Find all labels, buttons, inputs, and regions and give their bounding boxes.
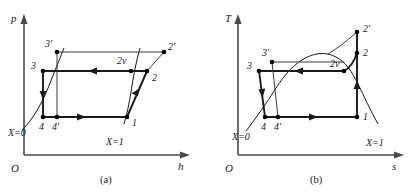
panel-a-label-4: 4 xyxy=(39,121,44,132)
panel-b-arrow-evaporate xyxy=(309,114,318,121)
panel-a-label-1: 1 xyxy=(132,117,137,128)
panel-b-line-2p-curve xyxy=(328,32,357,54)
panel-a-caption: (a) xyxy=(100,174,112,186)
panel-b-x-axis xyxy=(238,151,404,158)
panel-a-x-axis-label: h xyxy=(178,160,184,172)
panel-a-arrow-compress xyxy=(132,88,141,96)
panel-a-point-3prime xyxy=(55,50,60,55)
panel-b-label-2prime: 2' xyxy=(363,23,371,34)
panel-b-point-2v xyxy=(342,69,347,74)
panel-b-line-2-2v xyxy=(344,53,357,71)
panel-b-point-4prime xyxy=(276,115,281,120)
panel-a-point-1 xyxy=(125,115,130,120)
panel-a-y-axis-label: p xyxy=(10,12,17,24)
panel-b-arrow-compress xyxy=(354,80,361,89)
panel-a-origin-label: O xyxy=(11,162,19,174)
panel-b-point-3 xyxy=(257,69,262,74)
panel-b-arrow-condense xyxy=(294,68,303,75)
panel-b-label-3: 3 xyxy=(246,60,252,71)
panel-a-label-3: 3 xyxy=(30,60,36,71)
panel-a-point-4prime xyxy=(55,115,60,120)
panel-a-arrow-condense xyxy=(88,68,97,75)
panel-a-point-2v xyxy=(129,69,134,74)
panel-a-point-2prime xyxy=(162,50,167,55)
figure-svg: p h O 3' 3 4 4' 1 2 2' 2v X=0 X=1 (a) xyxy=(0,0,414,193)
figure-container: p h O 3' 3 4 4' 1 2 2' 2v X=0 X=1 (a) xyxy=(0,0,414,193)
panel-a-label-x0: X=0 xyxy=(7,127,26,138)
panel-a-label-2prime: 2' xyxy=(168,41,176,52)
panel-b-y-axis-label: T xyxy=(225,12,232,24)
panel-a-point-3 xyxy=(41,69,46,74)
panel-b-label-3prime: 3' xyxy=(261,47,270,58)
panel-b-label-x0: X=0 xyxy=(231,131,250,142)
panel-a-label-2v: 2v xyxy=(117,55,127,66)
panel-b-point-2 xyxy=(355,51,360,56)
panel-b-label-x1: X=1 xyxy=(365,137,384,148)
panel-b-point-2prime xyxy=(355,30,360,35)
panel-b-caption: (b) xyxy=(310,174,323,186)
panel-b-arrow-throttle xyxy=(259,89,266,98)
panel-a-label-x1: X=1 xyxy=(105,136,124,147)
panel-a-label-4prime: 4' xyxy=(52,121,60,132)
panel-a-x-axis xyxy=(24,151,190,158)
panel-b-label-4prime: 4' xyxy=(274,121,282,132)
panel-a-point-2 xyxy=(145,69,150,74)
panel-b-origin-label: O xyxy=(225,162,233,174)
panel-b-label-2v: 2v xyxy=(330,58,340,69)
panel-b-point-4 xyxy=(263,115,268,120)
panel-a-arrow-evaporate xyxy=(77,114,86,121)
panel-b-point-1 xyxy=(355,115,360,120)
panel-a-line-2p-2 xyxy=(147,52,164,71)
panel-b-label-1: 1 xyxy=(363,111,368,122)
panel-a: p h O 3' 3 4 4' 1 2 2' 2v X=0 X=1 (a) xyxy=(7,12,190,186)
panel-b-label-4: 4 xyxy=(261,121,266,132)
panel-a-label-2: 2 xyxy=(152,72,157,83)
panel-b: T s O 3' 3 4 4' 1 2 2' 2v X=0 X=1 (b) xyxy=(225,12,404,186)
panel-b-label-2: 2 xyxy=(363,47,368,58)
panel-b-point-3prime xyxy=(270,60,275,65)
panel-a-point-4 xyxy=(41,115,46,120)
panel-a-label-3prime: 3' xyxy=(44,38,53,49)
panel-b-x-axis-label: s xyxy=(392,160,396,172)
